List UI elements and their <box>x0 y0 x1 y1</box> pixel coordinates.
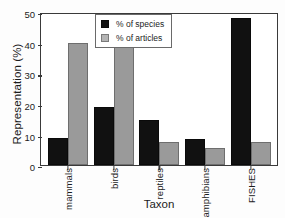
y-axis-tick-label: 20 <box>24 101 38 112</box>
legend-item-articles: % of articles <box>101 33 164 43</box>
bar-reptiles-species <box>139 120 159 165</box>
y-axis-tick-label: 50 <box>24 9 38 20</box>
y-axis-tick: 20 <box>24 97 41 115</box>
x-axis-label-birds: birds <box>108 168 119 189</box>
bar-group <box>185 14 225 165</box>
bar-chart-figure: Representation (%) 01020304050 mammalsbi… <box>0 0 285 218</box>
legend-swatch-species-icon <box>101 20 109 28</box>
bar-group <box>48 14 88 165</box>
y-axis-tick-label: 40 <box>24 40 38 51</box>
bar-fishes-articles <box>251 142 271 165</box>
bar-reptiles-articles <box>159 142 179 165</box>
legend-item-species: % of species <box>101 19 164 29</box>
bar-birds-articles <box>114 46 134 165</box>
y-axis-title: Representation (%) <box>11 19 23 169</box>
chart-legend: % of species % of articles <box>95 14 172 48</box>
x-axis-label-amphibians: amphibians <box>200 168 211 218</box>
legend-swatch-articles-icon <box>101 34 109 42</box>
bar-group <box>231 14 271 165</box>
legend-label-articles: % of articles <box>116 33 162 43</box>
y-axis-tick: 30 <box>24 66 41 84</box>
y-axis-tick: 40 <box>24 36 41 54</box>
x-axis-label-reptiles: reptiles <box>154 168 165 199</box>
bar-mammals-articles <box>68 43 88 165</box>
bar-birds-species <box>94 107 114 165</box>
y-axis-tick: 10 <box>24 127 41 145</box>
y-axis-tick-label: 30 <box>24 70 38 81</box>
x-axis-category-labels: mammalsbirdsreptilesamphibiansFISHES <box>40 168 278 202</box>
y-axis-tick-label: 0 <box>30 162 38 173</box>
bar-amphibians-species <box>185 139 205 165</box>
bar-amphibians-articles <box>205 148 225 165</box>
bar-fishes-species <box>231 18 251 165</box>
y-axis-tick-label: 10 <box>24 132 38 143</box>
y-axis-tick: 50 <box>24 5 41 23</box>
x-axis-title: Taxon <box>40 198 278 210</box>
legend-label-species: % of species <box>116 19 164 29</box>
bar-mammals-species <box>48 138 68 165</box>
